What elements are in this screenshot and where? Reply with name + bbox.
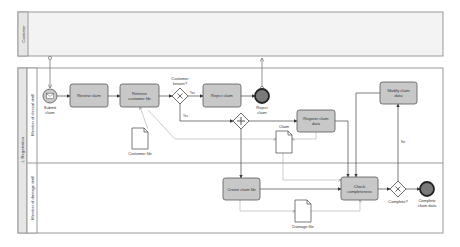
task-reject-claim[interactable]: Reject claim bbox=[203, 84, 241, 107]
customer-pool: Customer bbox=[18, 12, 443, 56]
document-icon bbox=[276, 131, 292, 153]
task-modify-claim-data[interactable]: Modify claim data bbox=[380, 82, 417, 104]
flow-label-yes-2: Yes bbox=[183, 114, 188, 118]
data-object-label: Customer file bbox=[128, 151, 152, 156]
task-label: Review claim bbox=[77, 93, 101, 98]
task-label: Reject claim bbox=[211, 93, 233, 98]
task-check-completeness[interactable]: Check completeness bbox=[341, 177, 378, 200]
end-event-label-2: claim data bbox=[418, 203, 437, 208]
end-event-label-2: claim bbox=[257, 110, 267, 115]
data-object-label: Claim bbox=[279, 124, 290, 129]
lane-clerical-label: Member of clerical staff bbox=[30, 93, 35, 135]
task-create-claim-file[interactable]: Create claim file bbox=[223, 178, 260, 200]
document-icon bbox=[132, 128, 148, 149]
bpmn-diagram: Customer 1. Registration Member of cleri… bbox=[0, 0, 460, 247]
task-label: Create claim file bbox=[227, 187, 256, 192]
gateway-label-2: known? bbox=[173, 81, 188, 86]
task-label-2: customer file bbox=[128, 96, 151, 101]
start-event-label-2: claim bbox=[45, 110, 55, 115]
task-retrieve-customer-file[interactable]: Retrieve customer file bbox=[120, 84, 159, 107]
task-label-2: completeness bbox=[347, 189, 372, 194]
data-object-label: Damage file bbox=[292, 224, 314, 229]
document-icon bbox=[295, 200, 311, 222]
customer-pool-label: Customer bbox=[21, 25, 26, 43]
task-label-2: data bbox=[395, 93, 404, 98]
task-label-2: data bbox=[312, 121, 321, 126]
data-object-damage-file[interactable]: Damage file bbox=[292, 200, 314, 229]
registration-pool-label: 1. Registration bbox=[20, 137, 25, 163]
gateway-label: Complete? bbox=[388, 199, 408, 204]
flow-label-no: No bbox=[401, 140, 405, 144]
task-review-claim[interactable]: Review claim bbox=[70, 84, 108, 107]
flow-label-yes: Yes bbox=[190, 91, 195, 95]
task-register-claim-data[interactable]: Register claim data bbox=[297, 110, 335, 132]
lane-damage-label: Member of damage staff bbox=[30, 175, 35, 219]
